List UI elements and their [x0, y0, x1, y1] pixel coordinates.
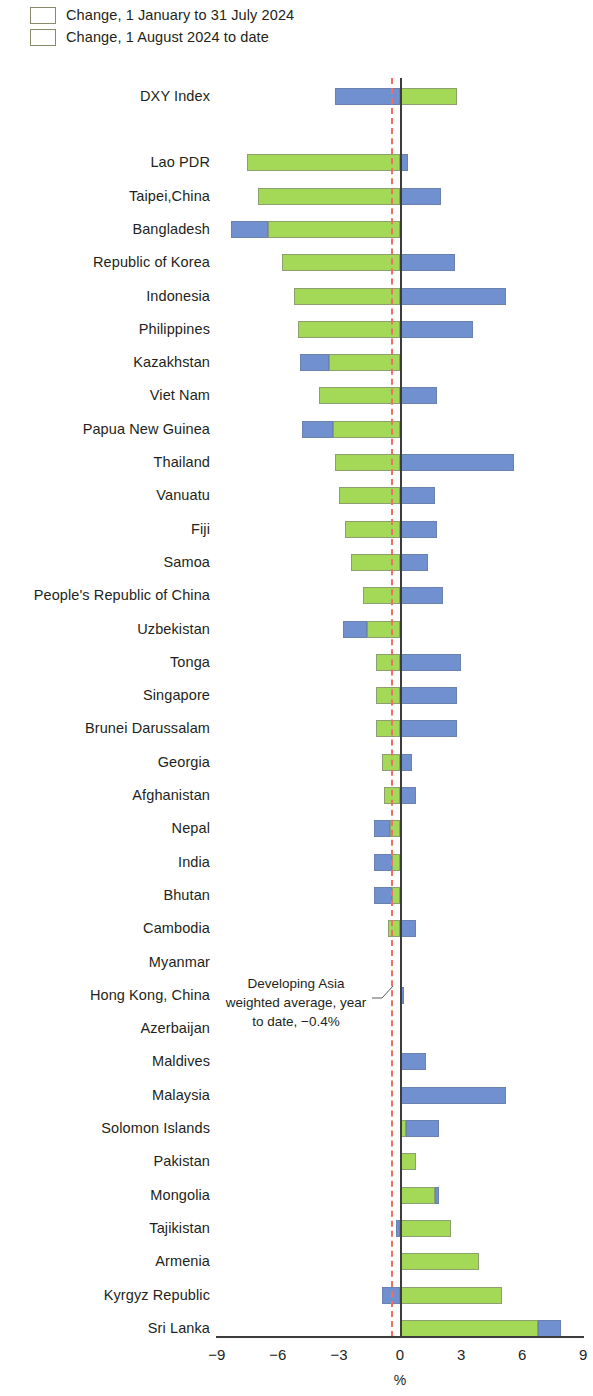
bar-jan-jul: [400, 1253, 479, 1270]
bar-aug-todate: [400, 920, 416, 937]
chart-row: Cambodia: [0, 914, 593, 942]
row-label: Azerbaijan: [140, 1014, 210, 1042]
chart-row: Mongolia: [0, 1181, 593, 1209]
row-label: Georgia: [158, 748, 210, 776]
bar-aug-todate: [302, 421, 333, 438]
chart-row: Taipei,China: [0, 182, 593, 210]
row-label: People's Republic of China: [34, 581, 210, 609]
chart-row: Philippines: [0, 315, 593, 343]
row-label: Sri Lanka: [148, 1314, 210, 1342]
row-label: Lao PDR: [150, 148, 210, 176]
row-label: Vanuatu: [156, 481, 210, 509]
row-label: Singapore: [143, 681, 210, 709]
row-label: Tonga: [170, 648, 210, 676]
chart-row: Maldives: [0, 1047, 593, 1075]
bar-aug-todate: [400, 454, 514, 471]
bar-aug-todate: [374, 820, 390, 837]
row-label: Philippines: [139, 315, 210, 343]
row-label: Thailand: [154, 448, 210, 476]
x-axis-title: %: [380, 1372, 420, 1388]
chart-row: Republic of Korea: [0, 248, 593, 276]
x-tick-9: 9: [563, 1346, 593, 1363]
chart-row: Bhutan: [0, 881, 593, 909]
bar-jan-jul: [367, 621, 400, 638]
chart-row: Brunei Darussalam: [0, 714, 593, 742]
bar-aug-todate: [400, 787, 416, 804]
bar-aug-todate: [400, 687, 457, 704]
row-label: Indonesia: [146, 282, 210, 310]
row-label: Republic of Korea: [93, 248, 210, 276]
bar-chart-plot-area: DXY IndexLao PDRTaipei,ChinaBangladeshRe…: [0, 0, 593, 1396]
row-label: Pakistan: [154, 1147, 210, 1175]
bar-aug-todate: [400, 1087, 506, 1104]
row-label: Fiji: [191, 515, 210, 543]
chart-row: Kazakhstan: [0, 348, 593, 376]
chart-row: Myanmar: [0, 948, 593, 976]
row-label: India: [178, 848, 210, 876]
chart-row: People's Republic of China: [0, 581, 593, 609]
bar-jan-jul: [298, 321, 400, 338]
bar-jan-jul: [400, 88, 457, 105]
chart-row: Thailand: [0, 448, 593, 476]
chart-row: Samoa: [0, 548, 593, 576]
bar-aug-todate: [400, 188, 441, 205]
bar-jan-jul: [376, 687, 400, 704]
row-label: DXY Index: [140, 82, 210, 110]
row-label: Kazakhstan: [133, 348, 210, 376]
chart-row: Vanuatu: [0, 481, 593, 509]
bar-aug-todate: [343, 621, 367, 638]
chart-row: Malaysia: [0, 1081, 593, 1109]
bar-aug-todate: [231, 221, 268, 238]
row-label: Cambodia: [143, 914, 210, 942]
chart-row: Indonesia: [0, 282, 593, 310]
row-label: Armenia: [155, 1247, 210, 1275]
x-axis-line: [216, 1336, 584, 1338]
bar-aug-todate: [300, 354, 328, 371]
row-label: Brunei Darussalam: [85, 714, 210, 742]
row-label: Hong Kong, China: [90, 981, 210, 1009]
chart-row: Viet Nam: [0, 381, 593, 409]
chart-row: Pakistan: [0, 1147, 593, 1175]
row-label: Tajikistan: [149, 1214, 210, 1242]
bar-jan-jul: [400, 1320, 538, 1337]
row-label: Bangladesh: [132, 215, 210, 243]
bar-jan-jul: [294, 288, 400, 305]
chart-row: Fiji: [0, 515, 593, 543]
bar-jan-jul: [392, 854, 400, 871]
bar-aug-todate: [374, 854, 392, 871]
zero-axis-line: [400, 78, 402, 1337]
chart-row: Singapore: [0, 681, 593, 709]
weighted-average-annotation: Developing Asia weighted average, year t…: [222, 974, 370, 1031]
bar-jan-jul: [363, 587, 400, 604]
chart-row: Armenia: [0, 1247, 593, 1275]
row-label: Viet Nam: [150, 381, 210, 409]
bar-jan-jul: [268, 221, 400, 238]
bar-jan-jul: [282, 254, 400, 271]
chart-row: Bangladesh: [0, 215, 593, 243]
bar-aug-todate: [400, 1053, 426, 1070]
bar-jan-jul: [376, 720, 400, 737]
chart-row: Nepal: [0, 814, 593, 842]
x-tick-0: 0: [380, 1346, 420, 1363]
bar-aug-todate: [400, 321, 473, 338]
bar-jan-jul: [400, 1220, 451, 1237]
bar-aug-todate: [400, 387, 437, 404]
chart-row: India: [0, 848, 593, 876]
row-label: Malaysia: [152, 1081, 210, 1109]
chart-row: Lao PDR: [0, 148, 593, 176]
row-label: Nepal: [172, 814, 210, 842]
bar-aug-todate: [400, 720, 457, 737]
bar-jan-jul: [319, 387, 400, 404]
weighted-average-reference-line: [391, 78, 393, 1337]
bar-aug-todate: [400, 654, 461, 671]
bar-jan-jul: [329, 354, 400, 371]
row-label: Myanmar: [149, 948, 210, 976]
row-label: Maldives: [152, 1047, 210, 1075]
row-label: Uzbekistan: [137, 615, 210, 643]
bar-aug-todate: [400, 254, 455, 271]
row-label: Kyrgyz Republic: [104, 1281, 210, 1309]
bar-aug-todate: [400, 288, 506, 305]
bar-jan-jul: [400, 1187, 435, 1204]
row-label: Samoa: [164, 548, 210, 576]
chart-row: Tonga: [0, 648, 593, 676]
